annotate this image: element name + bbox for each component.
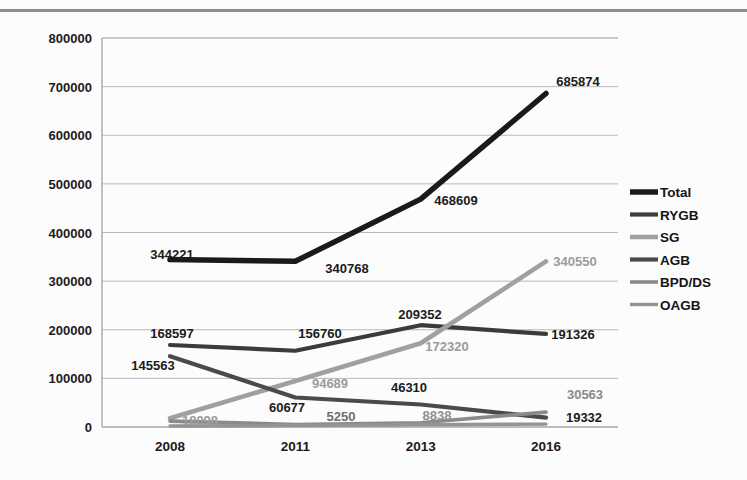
chart-legend: TotalRYGBSGAGBBPD/DSOAGB <box>630 185 711 313</box>
data-label: 30563 <box>567 387 603 402</box>
x-axis-tick-label: 2013 <box>406 439 437 454</box>
data-label: 340550 <box>553 254 596 269</box>
y-axis-tick-label: 300000 <box>49 274 92 289</box>
legend-label-sg: SG <box>660 230 680 245</box>
data-label: 468609 <box>434 193 477 208</box>
data-label: 19332 <box>566 410 602 425</box>
data-label: 60677 <box>269 400 305 415</box>
legend-label-rygb: RYGB <box>660 208 699 223</box>
line-chart: 8000007000006000005000004000003000002000… <box>0 0 747 480</box>
series-line-agb <box>170 356 546 417</box>
data-label: 172320 <box>425 339 468 354</box>
series-line-bpd-ds <box>170 412 546 424</box>
data-label: 46310 <box>391 380 427 395</box>
y-axis-tick-label: 500000 <box>49 177 92 192</box>
data-point-labels: 3442213407684686096858741685971567602093… <box>131 74 603 428</box>
data-label: 94689 <box>312 376 348 391</box>
data-label: 5250 <box>327 409 356 424</box>
y-axis-tick-label: 700000 <box>49 80 92 95</box>
series-line-total <box>170 93 546 261</box>
legend-label-oagb: OAGB <box>660 298 701 313</box>
data-label: 340768 <box>325 261 368 276</box>
x-axis-tick-label: 2011 <box>281 439 311 454</box>
series-line-oagb <box>170 424 546 426</box>
y-axis-tick-label: 0 <box>85 420 92 435</box>
data-label: 18098 <box>182 413 218 428</box>
x-axis-tick-labels: 2008201120132016 <box>155 439 562 454</box>
legend-label-total: Total <box>660 185 691 200</box>
y-axis-tick-labels: 8000007000006000005000004000003000002000… <box>49 31 92 435</box>
legend-label-bpd-ds: BPD/DS <box>660 275 711 290</box>
chart-svg: 8000007000006000005000004000003000002000… <box>0 0 747 480</box>
data-label: 191326 <box>551 327 594 342</box>
y-axis-tick-label: 100000 <box>49 371 92 386</box>
data-label: 156760 <box>298 326 341 341</box>
y-axis-tick-label: 800000 <box>49 31 92 46</box>
series-lines <box>170 93 546 426</box>
y-axis-tick-label: 600000 <box>49 128 92 143</box>
x-axis-tick-label: 2016 <box>531 439 562 454</box>
data-label: 145563 <box>131 358 174 373</box>
data-label: 168597 <box>150 326 193 341</box>
data-label: 685874 <box>556 74 600 89</box>
data-label: 344221 <box>150 247 193 262</box>
x-axis-tick-label: 2008 <box>155 439 186 454</box>
legend-label-agb: AGB <box>660 253 690 268</box>
series-line-rygb <box>170 325 546 351</box>
data-label: 209352 <box>398 307 441 322</box>
data-label: 8838 <box>423 408 452 423</box>
y-axis-tick-label: 400000 <box>49 226 92 241</box>
y-axis-tick-label: 200000 <box>49 323 92 338</box>
